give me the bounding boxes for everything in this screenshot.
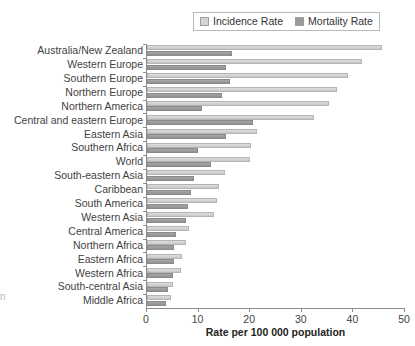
bar-incidence-rate	[147, 45, 382, 50]
y-axis-category-label: World	[1, 156, 143, 167]
bar-group-row	[147, 155, 405, 169]
bar-mortality-rate	[147, 134, 226, 139]
bar-incidence-rate	[147, 212, 214, 217]
x-axis-tick	[352, 308, 353, 312]
chart-legend: Incidence Rate Mortality Rate	[193, 12, 380, 31]
y-axis-category-label: Central and eastern Europe	[1, 115, 143, 126]
bar-group-row	[147, 225, 405, 239]
plot-area	[146, 44, 405, 308]
bar-mortality-rate	[147, 232, 176, 237]
bar-mortality-rate	[147, 176, 194, 181]
bar-mortality-rate	[147, 106, 202, 111]
bar-incidence-rate	[147, 73, 348, 78]
legend-label-incidence: Incidence Rate	[213, 15, 283, 27]
bar-mortality-rate	[147, 65, 226, 70]
bar-incidence-rate	[147, 143, 251, 148]
y-axis-category-label: Australia/New Zealand	[1, 45, 143, 56]
y-axis-category-label: Northern Europe	[1, 87, 143, 98]
bar-incidence-rate	[147, 268, 181, 273]
bar-incidence-rate	[147, 198, 217, 203]
bar-group-row	[147, 127, 405, 141]
x-axis-tick	[404, 308, 405, 312]
bar-mortality-rate	[147, 51, 232, 56]
y-axis-category-label: Western Africa	[1, 268, 143, 279]
legend-label-mortality: Mortality Rate	[308, 15, 373, 27]
bar-group-row	[147, 280, 405, 294]
bar-mortality-rate	[147, 301, 166, 306]
edge-artifact-text: n	[0, 291, 6, 302]
bar-mortality-rate	[147, 259, 174, 264]
x-axis-tick-label: 20	[243, 313, 255, 325]
bar-incidence-rate	[147, 240, 186, 245]
bar-incidence-rate	[147, 101, 329, 106]
bar-incidence-rate	[147, 295, 171, 300]
y-axis-category-label: Central America	[1, 226, 143, 237]
y-axis-category-label: Western Asia	[1, 212, 143, 223]
y-axis-category-label: Caribbean	[1, 184, 143, 195]
x-axis-tick	[301, 308, 302, 312]
bar-group-row	[147, 183, 405, 197]
bar-incidence-rate	[147, 254, 182, 259]
bar-incidence-rate	[147, 129, 257, 134]
y-axis-category-label: Middle Africa	[1, 295, 143, 306]
y-axis-category-label: Eastern Africa	[1, 254, 143, 265]
bar-mortality-rate	[147, 287, 168, 292]
bar-incidence-rate	[147, 87, 337, 92]
x-axis-tick-label: 0	[143, 313, 149, 325]
bar-mortality-rate	[147, 120, 253, 125]
bar-chart: Incidence Rate Mortality Rate Australia/…	[0, 0, 415, 346]
y-axis-category-label: South-eastern Asia	[1, 170, 143, 181]
bar-incidence-rate	[147, 157, 250, 162]
bar-group-row	[147, 72, 405, 86]
bar-mortality-rate	[147, 93, 222, 98]
y-axis-category-label: South-central Asia	[1, 281, 143, 292]
legend-entry-incidence-rate: Incidence Rate	[200, 15, 283, 27]
bar-group-row	[147, 58, 405, 72]
x-axis-tick	[249, 308, 250, 312]
bar-group-row	[147, 169, 405, 183]
bar-mortality-rate	[147, 162, 211, 167]
bar-incidence-rate	[147, 170, 225, 175]
y-axis-category-label: Southern Africa	[1, 142, 143, 153]
bar-group-row	[147, 113, 405, 127]
x-axis-title: Rate per 100 000 population	[146, 326, 405, 338]
x-axis-tick-label: 40	[347, 313, 359, 325]
x-axis-tick-label: 10	[192, 313, 204, 325]
bar-incidence-rate	[147, 115, 314, 120]
bar-mortality-rate	[147, 190, 191, 195]
bar-incidence-rate	[147, 59, 362, 64]
bar-mortality-rate	[147, 148, 198, 153]
bar-group-row	[147, 266, 405, 280]
bar-group-row	[147, 100, 405, 114]
legend-entry-mortality-rate: Mortality Rate	[295, 15, 373, 27]
bar-incidence-rate	[147, 226, 189, 231]
x-axis-ticks: 01020304050	[146, 308, 405, 328]
bar-incidence-rate	[147, 184, 219, 189]
legend-swatch-icon-incidence	[200, 17, 209, 26]
bar-group-row	[147, 294, 405, 308]
y-axis-category-label: South America	[1, 198, 143, 209]
x-axis-tick-label: 50	[398, 313, 410, 325]
bar-incidence-rate	[147, 282, 173, 287]
x-axis-tick	[198, 308, 199, 312]
bar-mortality-rate	[147, 273, 173, 278]
bar-group-row	[147, 197, 405, 211]
bar-mortality-rate	[147, 245, 174, 250]
bar-group-row	[147, 141, 405, 155]
y-axis-category-label: Northern Africa	[1, 240, 143, 251]
bar-mortality-rate	[147, 204, 188, 209]
y-axis-category-label: Southern Europe	[1, 73, 143, 84]
bar-group-row	[147, 239, 405, 253]
y-axis-category-labels: Australia/New ZealandWestern EuropeSouth…	[0, 44, 143, 308]
y-axis-category-label: Western Europe	[1, 59, 143, 70]
bar-group-row	[147, 211, 405, 225]
x-axis-tick-label: 30	[295, 313, 307, 325]
bar-group-row	[147, 252, 405, 266]
y-axis-category-label: Northern America	[1, 101, 143, 112]
x-axis-tick	[146, 308, 147, 312]
legend-swatch-icon-mortality	[295, 17, 304, 26]
bar-mortality-rate	[147, 79, 230, 84]
bar-group-row	[147, 86, 405, 100]
y-axis-category-label: Eastern Asia	[1, 129, 143, 140]
bar-group-row	[147, 44, 405, 58]
